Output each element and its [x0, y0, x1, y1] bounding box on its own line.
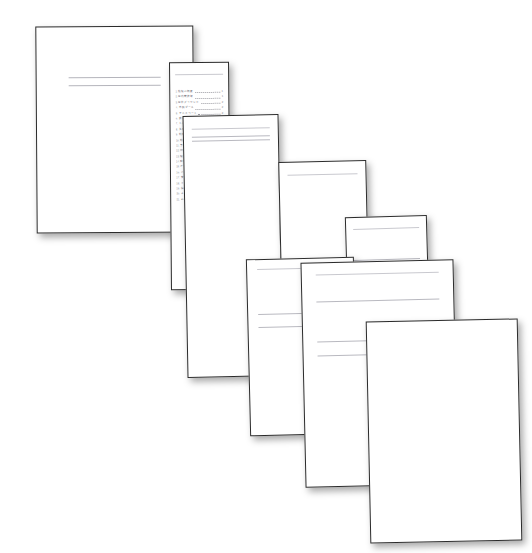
toc-leader-dots [195, 108, 220, 109]
subsection-heading [288, 187, 359, 189]
document-preview-stage: 1. 施設の概要12. 屋内競技場13. 屋外グラウンド24. 市民プール25.… [0, 0, 532, 553]
cover-rule-top [69, 77, 161, 79]
cover-content [50, 35, 179, 225]
running-header [380, 329, 503, 332]
subsection-heading [288, 187, 359, 189]
paragraph [193, 161, 270, 162]
cover-subtitle [51, 95, 179, 96]
subsection-heading [193, 161, 270, 162]
toc-leader-dots [201, 103, 220, 104]
paragraph [193, 145, 270, 146]
toc-leader-dots [195, 92, 220, 93]
header-rule [353, 227, 419, 230]
ornament-bottom-icon [51, 98, 179, 99]
paragraph-rule [192, 140, 269, 142]
subsection-heading [288, 186, 359, 188]
subsection-heading [354, 244, 420, 246]
header-rule [287, 173, 358, 176]
section-rule [316, 299, 440, 303]
paragraph [288, 187, 359, 189]
cover-rule-bottom [69, 85, 161, 87]
header-rule [315, 272, 439, 276]
subsection-heading [288, 187, 359, 189]
document-page-back[interactable] [366, 318, 523, 543]
paragraph [288, 186, 359, 188]
back-content [380, 329, 507, 534]
header-rule [192, 128, 269, 130]
toc-leader-dots [195, 98, 220, 99]
header-rule [175, 74, 223, 75]
paragraph [288, 187, 359, 189]
paragraph [193, 144, 270, 145]
column-header-department [317, 358, 369, 361]
heading-rule [192, 136, 269, 138]
paragraph [354, 244, 420, 246]
paragraph [288, 187, 359, 189]
